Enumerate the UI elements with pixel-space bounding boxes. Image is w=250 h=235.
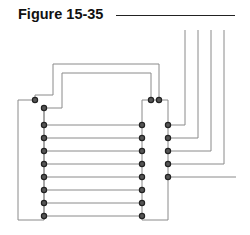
wire-top-outer-loop bbox=[35, 64, 159, 100]
junction-node bbox=[139, 161, 144, 166]
junction-node bbox=[41, 122, 46, 127]
wire-top-pair-bus bbox=[142, 100, 168, 220]
junction-node bbox=[139, 187, 144, 192]
junction-node bbox=[41, 174, 46, 179]
wire-external-3 bbox=[168, 30, 211, 151]
junction-node bbox=[165, 148, 170, 153]
junction-node bbox=[139, 135, 144, 140]
wire-external-4 bbox=[168, 30, 224, 164]
junction-node bbox=[165, 122, 170, 127]
junction-node bbox=[41, 187, 46, 192]
junction-node bbox=[41, 105, 46, 110]
junction-node bbox=[41, 200, 46, 205]
junction-node bbox=[41, 213, 46, 218]
junction-node bbox=[41, 135, 46, 140]
wiring-diagram bbox=[0, 0, 250, 235]
junction-node bbox=[156, 97, 161, 102]
junction-node bbox=[41, 161, 46, 166]
junction-node bbox=[165, 135, 170, 140]
junction-node bbox=[139, 200, 144, 205]
junction-node bbox=[139, 213, 144, 218]
junction-node bbox=[148, 97, 153, 102]
wire-outer-left-loop bbox=[18, 100, 44, 220]
wire-top-inner-loop bbox=[44, 73, 151, 108]
junction-node bbox=[139, 148, 144, 153]
wire-external-2 bbox=[168, 30, 198, 138]
junction-node bbox=[139, 122, 144, 127]
junction-node bbox=[41, 148, 46, 153]
junction-node bbox=[139, 174, 144, 179]
wire-external-1 bbox=[168, 30, 185, 125]
junction-node bbox=[165, 174, 170, 179]
junction-node bbox=[165, 161, 170, 166]
junction-node bbox=[32, 97, 37, 102]
